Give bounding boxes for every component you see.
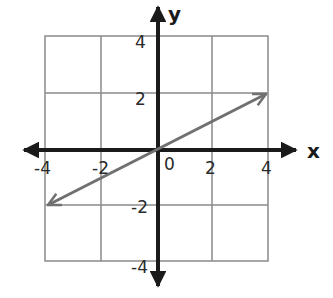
coordinate-plane: x y -4 -2 0 2 4 4 2 -2 -4 [0, 0, 333, 298]
x-tick-neg2: -2 [92, 158, 109, 178]
x-axis-label: x [307, 139, 320, 163]
x-tick-2: 2 [205, 158, 216, 178]
origin-label: 0 [164, 154, 175, 174]
y-tick-4: 4 [135, 32, 146, 52]
x-tick-neg4: -4 [34, 158, 51, 178]
y-axis-label: y [168, 2, 181, 26]
x-tick-4: 4 [261, 158, 272, 178]
y-tick-neg4: -4 [131, 257, 148, 277]
y-tick-2: 2 [135, 89, 146, 109]
y-tick-neg2: -2 [131, 197, 148, 217]
